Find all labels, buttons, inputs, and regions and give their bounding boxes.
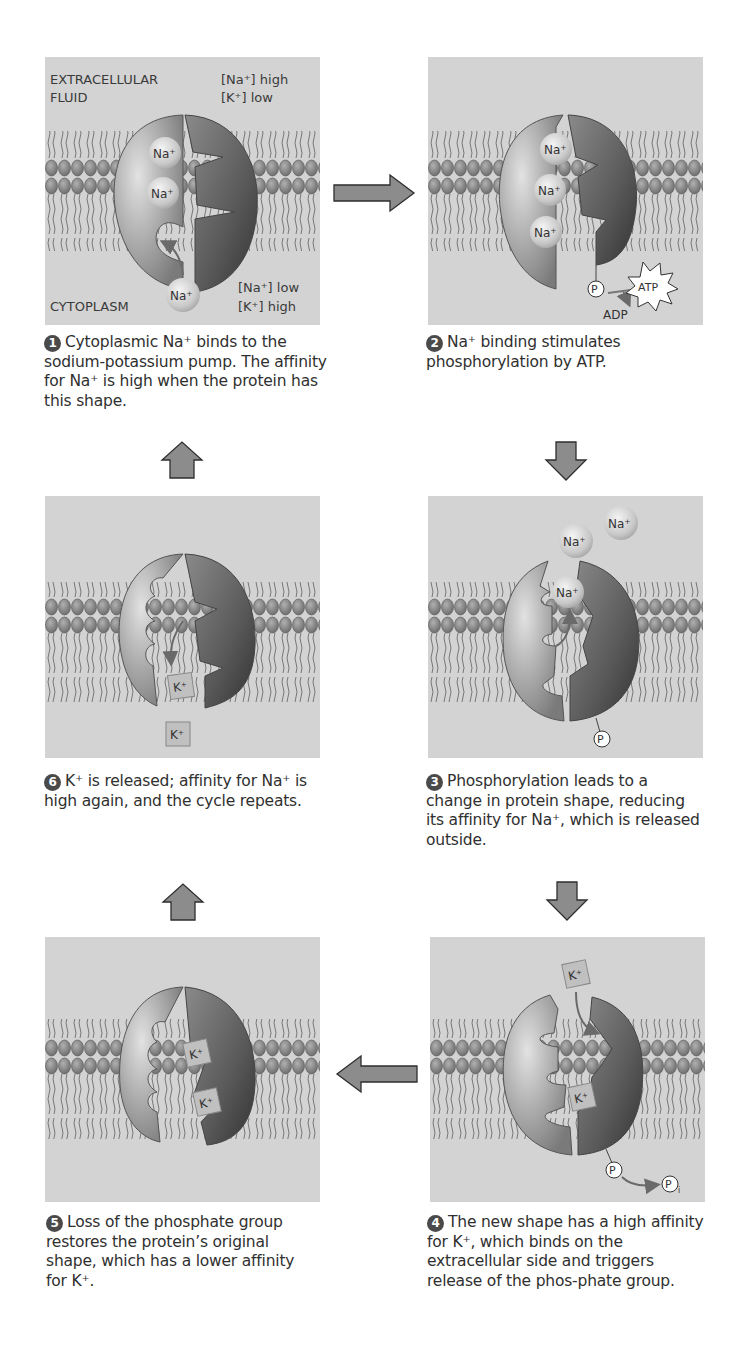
step-number-badge: 1	[44, 335, 61, 352]
svg-text:Na⁺: Na⁺	[538, 184, 561, 198]
svg-text:ATP: ATP	[638, 281, 658, 294]
label-extracellular: EXTRACELLULAR	[50, 71, 158, 88]
conc-in-k: [K⁺] high	[238, 298, 296, 315]
membrane-illustration: K⁺ K⁺	[45, 496, 320, 758]
caption-step-6: 6K⁺ is released; affinity for Na⁺ is hig…	[44, 772, 324, 811]
adp-label: ADP	[603, 308, 628, 322]
svg-text:P: P	[591, 283, 598, 296]
conc-out-na: [Na⁺] high	[221, 71, 288, 88]
svg-text:Na⁺: Na⁺	[151, 187, 174, 201]
na-ion: Na⁺	[604, 506, 638, 540]
na-ion: Na⁺	[147, 177, 179, 209]
membrane-illustration: K⁺ K⁺	[45, 937, 320, 1202]
svg-text:P: P	[597, 733, 604, 746]
svg-text:Na⁺: Na⁺	[608, 517, 631, 531]
caption-step-3: 3Phosphorylation leads to a change in pr…	[426, 772, 706, 850]
k-ion: K⁺	[193, 1088, 221, 1116]
panel-step-4: K⁺ K⁺ P Pi	[430, 937, 705, 1202]
svg-text:K⁺: K⁺	[170, 728, 184, 742]
conc-in-na: [Na⁺] low	[238, 279, 299, 296]
k-ion: K⁺	[167, 672, 194, 699]
membrane-illustration: Na⁺ Na⁺ Na⁺ P	[428, 496, 703, 758]
na-ion: Na⁺	[149, 137, 181, 169]
caption-step-5: 5Loss of the phosphate group restores th…	[46, 1213, 311, 1291]
na-ion: Na⁺	[534, 174, 566, 206]
step-number-badge: 2	[426, 335, 443, 352]
step-number-badge: 6	[44, 774, 61, 791]
step-number-badge: 3	[426, 774, 443, 791]
svg-text:Na⁺: Na⁺	[556, 586, 579, 600]
panel-step-5: K⁺ K⁺	[45, 937, 320, 1202]
svg-text:Na⁺: Na⁺	[534, 226, 557, 240]
membrane-illustration: Na⁺ Na⁺ Na⁺ P ATP ADP	[428, 57, 703, 325]
svg-text:K⁺: K⁺	[573, 1090, 590, 1107]
arrow-down-icon	[545, 880, 589, 922]
svg-text:K⁺: K⁺	[172, 679, 188, 695]
arrow-right-icon	[332, 173, 418, 213]
na-ion: Na⁺	[540, 133, 572, 165]
membrane-illustration: K⁺ K⁺ P Pi	[430, 937, 705, 1202]
phosphate-release-arrow	[622, 1177, 655, 1186]
svg-text:Na⁺: Na⁺	[544, 143, 567, 157]
svg-text:K⁺: K⁺	[188, 1046, 205, 1063]
panel-step-3: Na⁺ Na⁺ Na⁺ P	[428, 496, 703, 758]
svg-text:K⁺: K⁺	[567, 967, 584, 984]
arrow-up-icon	[161, 882, 205, 922]
lipid-bilayer	[45, 1019, 320, 1139]
panel-step-2: Na⁺ Na⁺ Na⁺ P ATP ADP	[428, 57, 703, 325]
na-ion: Na⁺	[552, 576, 584, 608]
k-ion: K⁺	[183, 1039, 211, 1067]
k-ion: K⁺	[562, 960, 590, 988]
caption-step-4: 4The new shape has a high affinity for K…	[427, 1213, 712, 1291]
na-ion: Na⁺	[530, 216, 562, 248]
na-ion: Na⁺	[559, 524, 593, 558]
svg-text:Na⁺: Na⁺	[170, 289, 193, 303]
label-fluid: FLUID	[50, 89, 87, 106]
svg-text:P: P	[665, 1178, 672, 1191]
lipid-bilayer	[430, 1019, 705, 1139]
arrow-left-icon	[333, 1054, 419, 1094]
panel-step-1: Na⁺ Na⁺ Na⁺ EXTRACELLULAR FLUID [Na⁺] hi…	[45, 57, 320, 325]
panel-step-6: K⁺ K⁺	[45, 496, 320, 758]
conc-out-k: [K⁺] low	[221, 89, 273, 106]
phosphate-icon: P	[606, 1162, 622, 1178]
svg-text:K⁺: K⁺	[198, 1095, 215, 1112]
label-cytoplasm: CYTOPLASM	[50, 298, 129, 315]
arrow-down-icon	[544, 440, 588, 482]
na-ion: Na⁺	[166, 278, 200, 312]
caption-step-2: 2Na⁺ binding stimulates phosphorylation …	[426, 333, 696, 372]
phosphate-icon: P	[588, 281, 604, 297]
k-ion: K⁺	[568, 1083, 596, 1111]
step-number-badge: 5	[46, 1215, 63, 1232]
phosphate-icon: P	[594, 731, 610, 747]
inorganic-phosphate-icon: Pi	[662, 1176, 680, 1195]
atp-burst-icon: ATP	[626, 262, 678, 311]
step-number-badge: 4	[427, 1215, 444, 1232]
svg-text:Na⁺: Na⁺	[563, 535, 586, 549]
k-ion: K⁺	[166, 722, 190, 746]
caption-step-1: 1Cytoplasmic Na⁺ binds to the sodium-pot…	[44, 333, 334, 411]
arrow-up-icon	[160, 440, 204, 480]
svg-text:i: i	[678, 1186, 680, 1195]
svg-text:Na⁺: Na⁺	[153, 147, 176, 161]
svg-text:P: P	[609, 1164, 616, 1177]
